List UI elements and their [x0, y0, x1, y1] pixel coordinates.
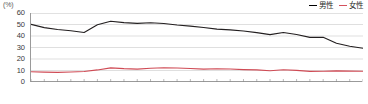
x-axis-ticks	[31, 79, 363, 82]
gridlines	[31, 13, 363, 71]
legend-item-male[interactable]: 男性	[309, 1, 333, 10]
legend-label-female: 女性	[349, 1, 363, 10]
legend-line-icon-male	[309, 5, 317, 6]
y-axis-tick-10: 10	[17, 67, 25, 75]
legend-item-female[interactable]: 女性	[339, 1, 363, 10]
chart-legend: 男性 女性	[309, 1, 363, 10]
y-axis-labels: 0102030405060	[0, 0, 28, 95]
y-axis-tick-60: 60	[17, 9, 25, 17]
y-axis-tick-40: 40	[17, 32, 25, 40]
chart-svg	[31, 13, 363, 82]
legend-line-icon-female	[339, 5, 347, 6]
y-axis-tick-50: 50	[17, 21, 25, 29]
legend-label-male: 男性	[319, 1, 333, 10]
series-line-male	[31, 21, 363, 48]
plot-area	[30, 13, 362, 82]
y-axis-tick-30: 30	[17, 44, 25, 52]
y-axis-tick-20: 20	[17, 55, 25, 63]
chart-container: (%) 男性 女性 0102030405060	[0, 0, 368, 104]
x-axis-labels	[0, 84, 368, 104]
series-line-female	[31, 68, 363, 73]
